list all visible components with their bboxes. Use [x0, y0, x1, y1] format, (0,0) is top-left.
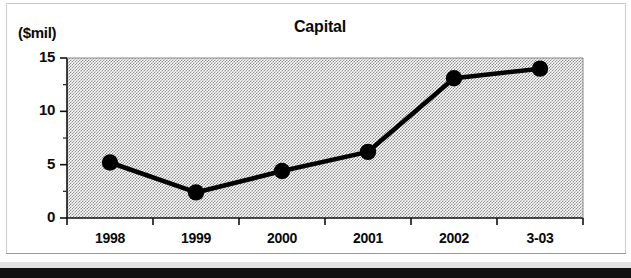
data-point-marker	[274, 163, 290, 179]
data-point-marker	[188, 184, 204, 200]
scanned-page: ($mil) Capital 051015 199819992000200120…	[0, 0, 631, 278]
y-axis-tick-label: 15	[11, 48, 55, 65]
data-point-marker	[532, 60, 548, 76]
x-axis-tick-label: 3-03	[495, 230, 585, 246]
x-axis-ticks	[67, 218, 583, 225]
data-point-marker	[446, 70, 462, 86]
x-axis-tick-label: 1998	[65, 230, 155, 246]
x-axis-tick-label: 2001	[323, 230, 413, 246]
line-chart-figure: ($mil) Capital 051015 199819992000200120…	[0, 0, 631, 256]
axis-lines	[67, 58, 583, 218]
data-markers	[102, 60, 548, 200]
y-axis-tick-label: 10	[11, 101, 55, 118]
plot-svg	[0, 0, 631, 256]
data-point-marker	[360, 144, 376, 160]
y-axis-tick-label: 5	[11, 155, 55, 172]
x-axis-tick-label: 2000	[237, 230, 327, 246]
y-axis-tick-label: 0	[11, 208, 55, 225]
x-axis-tick-label: 2002	[409, 230, 499, 246]
y-axis-ticks	[60, 58, 67, 218]
x-axis-tick-label: 1999	[151, 230, 241, 246]
scan-edge-bar	[0, 268, 631, 278]
data-point-marker	[102, 154, 118, 170]
data-line	[110, 69, 540, 193]
